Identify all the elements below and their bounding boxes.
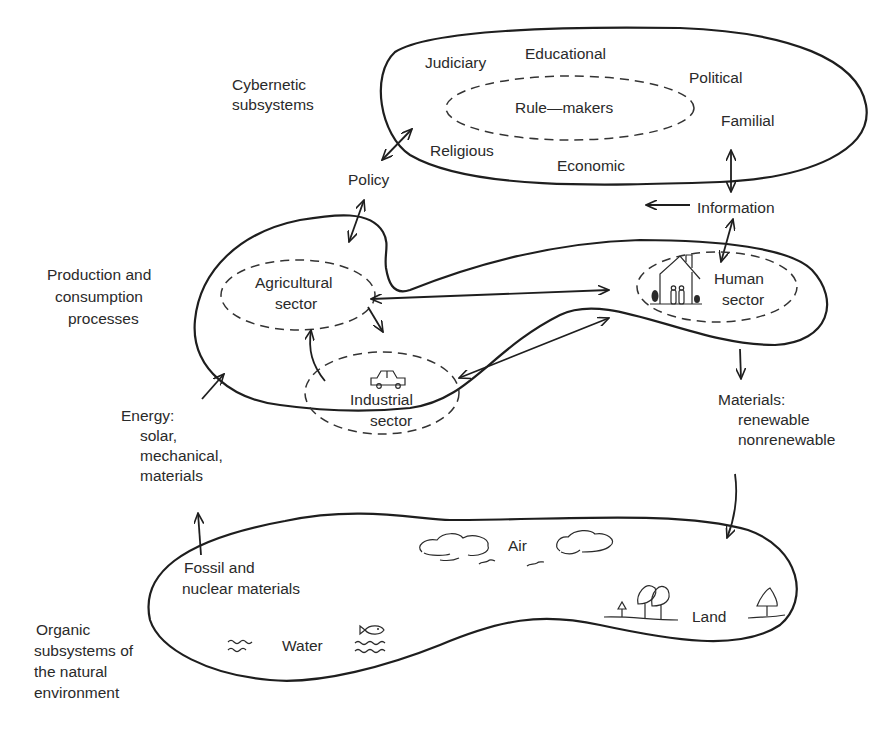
- energy-label-line3: mechanical,: [140, 447, 223, 464]
- materials-label-line1: Materials:: [718, 391, 785, 408]
- subsystem-familial: Familial: [721, 112, 774, 129]
- natural-label-line4: environment: [34, 684, 120, 701]
- production-label-line2: consumption: [55, 288, 143, 305]
- materials-label-line2: renewable: [738, 411, 810, 428]
- energy-label-line2: solar,: [140, 427, 177, 444]
- human-sector-label-line2: sector: [722, 291, 764, 308]
- human-sector-boundary: [637, 252, 797, 322]
- subsystem-economic: Economic: [557, 157, 625, 174]
- fossil-label-line1: Fossil and: [184, 559, 255, 576]
- materials-arrow-out: [740, 349, 741, 379]
- production-boundary: [195, 215, 828, 410]
- agricultural-sector-label-line2: sector: [275, 295, 317, 312]
- industrial-agri-arrow: [310, 330, 325, 381]
- societal-system-diagram: Rule—makers Judiciary Educational Politi…: [0, 0, 880, 729]
- fish-icon: [360, 626, 384, 634]
- air-label: Air: [508, 537, 527, 554]
- subsystem-judiciary: Judiciary: [425, 54, 486, 71]
- energy-arrow: [202, 374, 224, 399]
- subsystem-political: Political: [689, 69, 742, 86]
- car-icon: [371, 371, 405, 388]
- materials-label-line3: nonrenewable: [738, 431, 835, 448]
- energy-label-line1: Energy:: [121, 407, 174, 424]
- policy-arrow-upper: [382, 129, 412, 160]
- natural-label-line2: subsystems of: [34, 642, 134, 659]
- house-icon: [650, 255, 702, 304]
- bird-icon: [479, 560, 544, 566]
- human-sector-label-line1: Human: [714, 270, 764, 287]
- industrial-sector-label-line2: sector: [370, 412, 412, 429]
- water-label: Water: [282, 637, 323, 654]
- industrial-sector-label-line1: Industrial: [350, 391, 413, 408]
- subsystem-religious: Religious: [430, 142, 494, 159]
- production-label-line3: processes: [68, 310, 139, 327]
- rule-makers-label: Rule—makers: [515, 99, 613, 116]
- information-human-arrow: [721, 219, 733, 262]
- policy-label: Policy: [348, 171, 390, 188]
- agricultural-sector-label-line1: Agricultural: [255, 274, 333, 291]
- energy-label-line4: materials: [140, 467, 203, 484]
- subsystem-educational: Educational: [525, 45, 606, 62]
- cybernetic-label-line1: Cybernetic: [232, 76, 306, 93]
- fossil-label-line2: nuclear materials: [182, 580, 300, 597]
- cybernetic-subsystem-group: Rule—makers Judiciary Educational Politi…: [381, 28, 867, 185]
- materials-arrow-in: [727, 474, 736, 538]
- industrial-human-arrow: [459, 318, 609, 378]
- policy-arrow-lower: [349, 200, 364, 242]
- natural-environment-boundary: [149, 514, 797, 681]
- natural-label-line3: the natural: [34, 663, 107, 680]
- production-label-line1: Production and: [47, 266, 151, 283]
- land-label: Land: [692, 608, 726, 625]
- information-label: Information: [697, 199, 775, 216]
- agri-industrial-arrow: [368, 307, 383, 332]
- fossil-arrow: [198, 513, 201, 555]
- natural-label-line1: Organic: [36, 621, 91, 638]
- cybernetic-label-line2: subsystems: [232, 96, 314, 113]
